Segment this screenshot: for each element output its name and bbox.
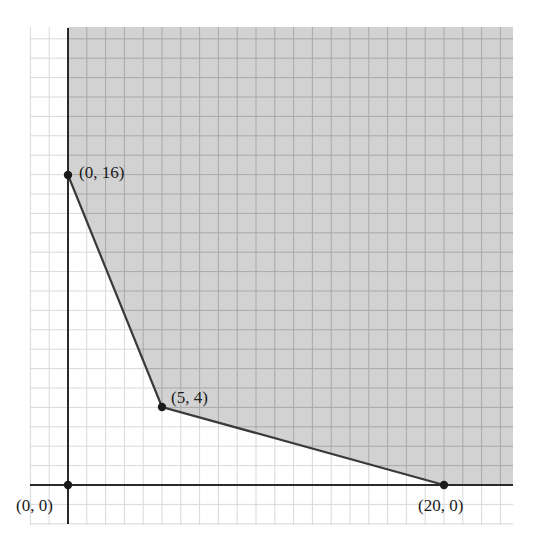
vertex-point-5-4	[158, 403, 166, 411]
label-20-0: (20, 0)	[418, 496, 463, 515]
label-0-16: (0, 16)	[79, 163, 124, 182]
vertex-point-0-16	[64, 171, 72, 179]
origin-point	[64, 481, 72, 489]
label-5-4: (5, 4)	[171, 388, 208, 407]
vertex-point-20-0	[440, 481, 448, 489]
label-origin: (0, 0)	[16, 496, 53, 515]
feasible-region-graph: (0, 16) (5, 4) (20, 0) (0, 0)	[0, 0, 533, 547]
